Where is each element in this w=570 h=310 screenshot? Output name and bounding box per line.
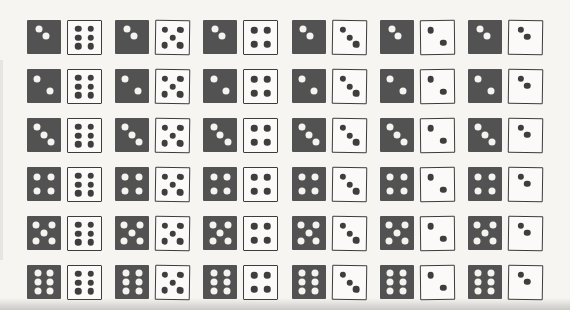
pip — [88, 43, 95, 50]
pip — [399, 88, 406, 95]
pip — [122, 269, 129, 276]
pip — [122, 187, 129, 194]
pip — [481, 230, 488, 237]
pip — [488, 173, 495, 180]
pip — [346, 83, 353, 90]
pip — [299, 288, 306, 295]
pip — [311, 88, 318, 95]
pip — [427, 223, 434, 230]
dice-pair — [203, 20, 278, 55]
dice-pair — [468, 216, 543, 251]
dark-die — [380, 265, 414, 299]
pip — [440, 284, 447, 291]
pip — [386, 187, 393, 194]
pip — [75, 92, 82, 99]
white-die — [331, 69, 367, 105]
pip — [401, 222, 408, 229]
pip — [223, 269, 230, 276]
pip — [225, 237, 232, 244]
pip — [177, 76, 184, 83]
pip — [162, 140, 169, 147]
pip — [75, 230, 82, 237]
pip — [517, 27, 524, 34]
pip — [223, 279, 230, 286]
dark-die — [27, 69, 61, 103]
pip — [299, 279, 306, 286]
pip — [264, 90, 271, 97]
dark-die — [468, 69, 502, 103]
pip — [34, 173, 41, 180]
dice-pair — [468, 69, 543, 104]
dark-die — [380, 69, 414, 103]
pip — [75, 141, 82, 148]
pip — [474, 222, 481, 229]
white-die — [243, 265, 278, 300]
pip — [223, 88, 230, 95]
pip — [46, 88, 53, 95]
pip — [75, 270, 82, 277]
pip — [385, 222, 392, 229]
dark-die — [203, 20, 237, 54]
pip — [210, 288, 217, 295]
dice-pair — [292, 167, 367, 202]
pip — [121, 222, 128, 229]
white-die — [67, 69, 102, 104]
pip — [300, 26, 307, 33]
pip — [312, 187, 319, 194]
pip — [177, 174, 184, 181]
pip — [88, 141, 95, 148]
dark-die — [203, 265, 237, 299]
dice-pair — [27, 216, 102, 251]
pip — [224, 187, 231, 194]
pip — [75, 43, 82, 50]
dice-pair — [380, 216, 455, 251]
pip — [224, 173, 231, 180]
pip — [134, 88, 141, 95]
pip — [524, 229, 531, 236]
pip — [75, 132, 82, 139]
pip — [88, 92, 95, 99]
pip — [393, 230, 400, 237]
pip — [251, 41, 258, 48]
dark-die — [27, 216, 61, 250]
pip — [75, 288, 82, 295]
pip — [135, 269, 142, 276]
pip — [48, 237, 55, 244]
pip — [210, 173, 217, 180]
dark-die — [203, 69, 237, 103]
pip — [122, 279, 129, 286]
pip — [47, 269, 54, 276]
pip — [264, 41, 271, 48]
pip — [162, 173, 169, 180]
pip — [427, 174, 434, 181]
pip — [401, 237, 408, 244]
dice-pair — [380, 20, 455, 55]
dark-die — [292, 20, 326, 54]
pip — [524, 82, 531, 89]
dark-die — [468, 118, 502, 152]
pip — [129, 230, 136, 237]
white-die — [420, 167, 455, 202]
dice-pair — [27, 20, 102, 55]
pip — [210, 75, 217, 82]
pip — [475, 279, 482, 286]
pip — [264, 174, 271, 181]
white-die — [67, 265, 102, 300]
white-die — [331, 265, 367, 301]
dice-row — [27, 216, 543, 251]
pip — [162, 222, 169, 229]
dice-pair — [27, 167, 102, 202]
pip — [427, 125, 434, 132]
pip — [400, 288, 407, 295]
pip — [88, 123, 95, 130]
pip — [135, 187, 142, 194]
pip — [122, 288, 129, 295]
pip — [385, 237, 392, 244]
pip — [129, 132, 136, 139]
pip — [517, 174, 524, 181]
pip — [177, 140, 184, 147]
dice-pair — [468, 20, 543, 55]
pip — [305, 132, 312, 139]
pip — [41, 230, 48, 237]
pip — [353, 237, 360, 244]
